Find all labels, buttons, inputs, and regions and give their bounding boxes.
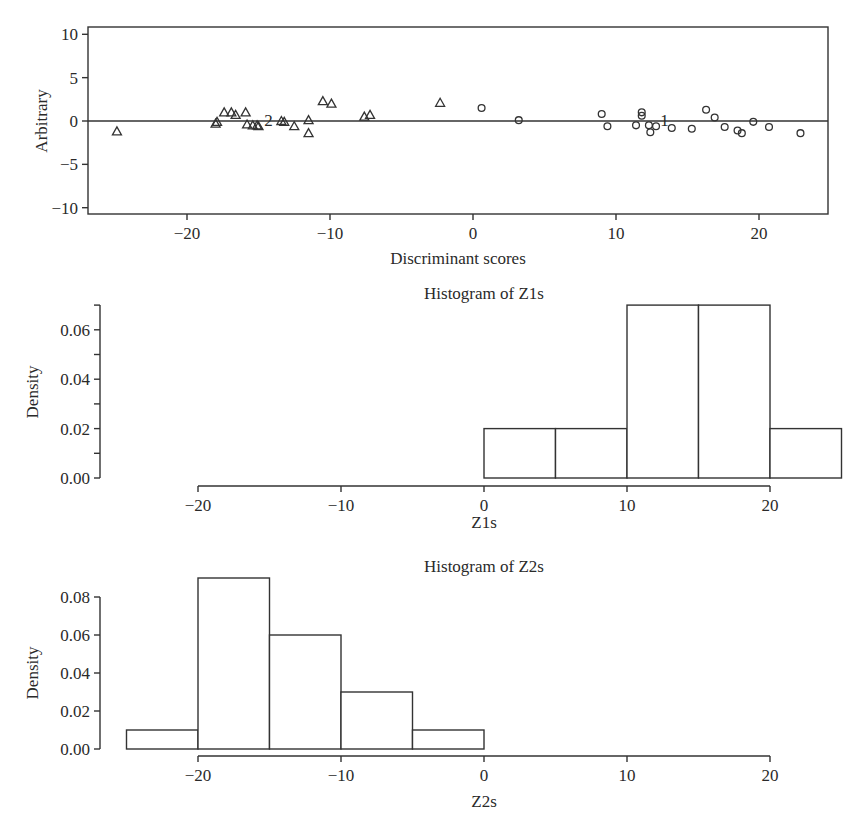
histogram-z2s-panel: Histogram of Z2s 0.000.020.040.060.08 −2… (23, 557, 779, 811)
circle-marker (703, 106, 710, 113)
circle-marker (766, 124, 773, 131)
circle-marker (515, 117, 522, 124)
circle-marker (647, 129, 654, 136)
triangle-marker (112, 127, 121, 135)
histogram-z2s-title: Histogram of Z2s (424, 557, 544, 576)
x-tick-label: 10 (619, 766, 636, 785)
scatter-y-axis: 1050−5−10 (51, 25, 88, 217)
y-tick-label: 0.04 (60, 664, 90, 683)
histogram-bar (556, 429, 628, 478)
scatter-x-axis: −20−1001020 (174, 214, 768, 243)
triangle-marker (304, 116, 313, 124)
histogram-z1s-x-label: Z1s (471, 513, 497, 532)
y-tick-label: 5 (70, 69, 79, 88)
y-tick-label: −5 (60, 155, 78, 174)
x-tick-label: 10 (608, 224, 625, 243)
group-centroid-label: 1 (660, 111, 669, 130)
histogram-z1s-title: Histogram of Z1s (424, 284, 544, 303)
histogram-z1s-y-label: Density (23, 365, 42, 418)
y-tick-label: 0.02 (60, 702, 90, 721)
x-tick-label: −20 (185, 766, 212, 785)
scatter-x-label: Discriminant scores (390, 249, 526, 268)
triangle-marker (304, 129, 313, 137)
triangle-marker (436, 98, 445, 106)
circle-marker (711, 114, 718, 121)
circle-marker (598, 111, 605, 118)
x-tick-label: −10 (328, 766, 355, 785)
triangle-marker (241, 108, 250, 116)
triangle-marker (327, 99, 336, 107)
x-tick-label: 0 (480, 766, 489, 785)
x-tick-label: −10 (317, 224, 344, 243)
y-tick-label: 10 (61, 25, 78, 44)
histogram-z2s-y-axis: 0.000.020.040.060.08 (60, 588, 100, 759)
circle-marker (668, 125, 675, 132)
figure: 1050−5−10 −20−1001020 21 Discriminant sc… (0, 0, 861, 831)
y-tick-label: 0 (70, 112, 79, 131)
circle-marker (797, 130, 804, 137)
histogram-bar (484, 429, 556, 478)
histogram-z2s-x-axis: −20−1001020 (185, 756, 779, 785)
histogram-bar (770, 429, 842, 478)
circle-marker (645, 122, 652, 129)
triangle-marker (318, 97, 327, 105)
x-tick-label: −20 (174, 224, 201, 243)
y-tick-label: 0.00 (60, 469, 90, 488)
x-tick-label: 0 (469, 224, 478, 243)
x-tick-label: 20 (751, 224, 768, 243)
x-tick-label: 20 (762, 496, 779, 515)
circle-marker (688, 125, 695, 132)
histogram-z2s-x-label: Z2s (471, 792, 497, 811)
y-tick-label: 0.06 (60, 626, 90, 645)
histogram-bar (413, 730, 485, 749)
histogram-z1s-bars (484, 305, 842, 478)
circle-marker (478, 105, 485, 112)
histogram-bar (127, 730, 199, 749)
circle-marker (750, 118, 757, 125)
x-tick-label: −20 (185, 496, 212, 515)
scatter-panel: 1050−5−10 −20−1001020 21 Discriminant sc… (32, 25, 828, 268)
group-centroid-label: 2 (264, 111, 273, 130)
histogram-bar (270, 635, 342, 749)
y-tick-label: 0.02 (60, 420, 90, 439)
x-tick-label: −10 (328, 496, 355, 515)
scatter-y-label: Arbitrary (32, 89, 51, 153)
y-tick-label: 0.00 (60, 740, 90, 759)
y-tick-label: 0.04 (60, 370, 90, 389)
circle-marker (721, 124, 728, 131)
circle-marker (633, 122, 640, 129)
y-tick-label: −10 (51, 199, 78, 218)
histogram-z1s-x-axis: −20−1001020 (185, 486, 779, 515)
histogram-bar (198, 578, 270, 749)
histogram-bar (699, 305, 771, 478)
scatter-points: 21 (112, 97, 803, 137)
y-tick-label: 0.08 (60, 588, 90, 607)
histogram-z1s-y-axis: 0.000.020.040.06 (60, 305, 100, 488)
y-tick-label: 0.06 (60, 321, 90, 340)
histogram-z1s-panel: Histogram of Z1s 0.000.020.040.06 −20−10… (23, 284, 842, 532)
circle-marker (604, 123, 611, 130)
histogram-z2s-bars (127, 578, 485, 749)
circle-marker (653, 123, 660, 130)
triangle-marker (290, 122, 299, 130)
histogram-bar (341, 692, 413, 749)
x-tick-label: 20 (762, 766, 779, 785)
histogram-bar (627, 305, 699, 478)
x-tick-label: 10 (619, 496, 636, 515)
histogram-z2s-y-label: Density (23, 646, 42, 699)
triangle-marker (366, 110, 375, 118)
